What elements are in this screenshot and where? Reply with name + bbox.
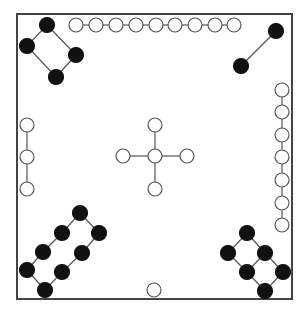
black-stone — [20, 39, 35, 54]
white-stone — [148, 118, 162, 132]
black-stone — [240, 226, 255, 241]
white-stone — [168, 18, 182, 32]
black-stone — [234, 59, 249, 74]
black-stone — [55, 226, 70, 241]
white-stone — [275, 83, 289, 97]
white-stone — [20, 150, 34, 164]
white-stone — [275, 173, 289, 187]
white-stone — [275, 218, 289, 232]
white-stone — [275, 150, 289, 164]
black-stone — [38, 283, 53, 298]
white-stone — [275, 196, 289, 210]
game-board — [0, 0, 308, 312]
black-stone — [258, 246, 273, 261]
black-stone — [276, 265, 291, 280]
white-stone — [208, 18, 222, 32]
white-stone — [188, 18, 202, 32]
black-stone — [269, 24, 284, 39]
white-stone — [20, 118, 34, 132]
black-stone — [240, 265, 255, 280]
stones — [20, 18, 291, 299]
white-stone — [275, 128, 289, 142]
black-stone — [36, 245, 51, 260]
black-stone — [40, 18, 55, 33]
white-stone — [227, 18, 241, 32]
black-stone — [92, 226, 107, 241]
black-stone — [20, 263, 35, 278]
white-stone — [149, 18, 163, 32]
white-stone — [89, 18, 103, 32]
black-stone — [49, 70, 64, 85]
black-stone — [55, 265, 70, 280]
white-stone — [129, 18, 143, 32]
white-stone — [275, 105, 289, 119]
black-stone — [75, 246, 90, 261]
white-stone — [69, 18, 83, 32]
white-stone — [180, 149, 194, 163]
white-stone — [20, 182, 34, 196]
white-stone — [147, 283, 161, 297]
black-stone — [221, 246, 236, 261]
black-stone — [69, 48, 84, 63]
black-stone — [258, 284, 273, 299]
white-stone — [109, 18, 123, 32]
black-stone — [73, 206, 88, 221]
white-stone — [116, 149, 130, 163]
white-stone — [148, 182, 162, 196]
white-stone — [148, 149, 162, 163]
